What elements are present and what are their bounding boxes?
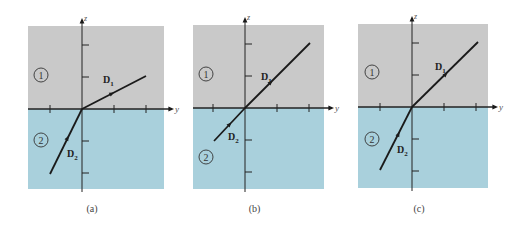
panel-caption: (c) xyxy=(413,203,424,214)
panel-b: zy12D1D2 xyxy=(193,13,339,192)
svg-text:2: 2 xyxy=(370,134,375,145)
z-axis-label: z xyxy=(246,13,251,22)
region-2 xyxy=(193,108,324,189)
svg-text:2: 2 xyxy=(204,152,209,163)
y-axis-label: y xyxy=(498,102,503,112)
arrowhead-icon xyxy=(492,105,498,110)
svg-text:1: 1 xyxy=(204,69,209,80)
y-axis-label: y xyxy=(334,103,339,113)
panel-caption: (b) xyxy=(249,203,261,214)
svg-text:2: 2 xyxy=(39,135,44,146)
y-axis-label: y xyxy=(174,104,179,114)
panel-c: zy12D1D2 xyxy=(358,12,503,191)
region-1 xyxy=(28,26,164,109)
region-2 xyxy=(358,107,488,188)
svg-text:1: 1 xyxy=(39,70,44,81)
panel-a: zy12D1D2 xyxy=(28,14,179,192)
boundary-conditions-figure: zy12D1D2zy12D1D2zy12D1D2 xyxy=(0,0,524,234)
region-1 xyxy=(358,24,488,107)
panel-caption: (a) xyxy=(86,203,97,214)
region-2 xyxy=(28,109,164,189)
z-axis-label: z xyxy=(83,14,88,23)
z-axis-label: z xyxy=(413,12,418,21)
arrowhead-icon xyxy=(168,107,174,112)
arrowhead-icon xyxy=(328,106,334,111)
svg-text:1: 1 xyxy=(370,67,375,78)
